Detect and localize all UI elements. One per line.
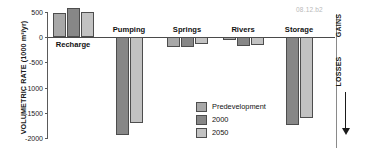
legend-swatch xyxy=(196,115,207,125)
bar xyxy=(223,37,236,40)
gains-label: GAINS xyxy=(335,6,342,46)
bar xyxy=(81,12,94,37)
y-tick-label: 0 xyxy=(39,34,43,41)
y-tick-label: -1500 xyxy=(25,109,43,116)
bar xyxy=(251,37,264,45)
legend-swatch xyxy=(196,128,207,138)
group-label: Rivers xyxy=(231,25,254,34)
bar xyxy=(53,13,66,38)
losses-arrow-head xyxy=(342,128,350,135)
y-tick xyxy=(45,62,49,63)
bar xyxy=(286,37,299,125)
y-tick-label: 500 xyxy=(31,9,43,16)
y-tick xyxy=(45,37,49,38)
y-tick xyxy=(45,138,49,139)
y-tick xyxy=(45,88,49,89)
y-tick-label: -1000 xyxy=(25,84,43,91)
y-tick xyxy=(45,12,49,13)
losses-label: LOSSES xyxy=(335,44,342,100)
bar xyxy=(300,37,313,118)
legend-item: 2050 xyxy=(196,126,266,139)
y-axis-title: VOLUMETRIC RATE (1000 m³/yr) xyxy=(19,8,28,148)
group-label: Pumping xyxy=(113,25,145,34)
losses-arrow-shaft xyxy=(345,92,346,130)
bar xyxy=(116,37,129,135)
group-label: Recharge xyxy=(56,40,91,49)
bar xyxy=(67,8,80,37)
chart-legend: Predevelopment20002050 xyxy=(196,100,266,139)
legend-swatch xyxy=(196,102,207,112)
legend-label: 2000 xyxy=(212,115,228,124)
figure-container: 08.12.b2 VOLUMETRIC RATE (1000 m³/yr) 50… xyxy=(0,0,365,156)
bar xyxy=(167,37,180,47)
group-label: Springs xyxy=(173,25,201,34)
group-label: Storage xyxy=(285,25,313,34)
legend-label: 2050 xyxy=(212,128,228,137)
plot-area: 5000-500-1000-1500-2000RechargePumpingSp… xyxy=(47,12,335,138)
bar xyxy=(237,37,250,46)
y-axis-line xyxy=(47,12,48,138)
y-tick xyxy=(45,113,49,114)
y-tick-label: -2000 xyxy=(25,135,43,142)
legend-item: Predevelopment xyxy=(196,100,266,113)
bar xyxy=(195,37,208,44)
legend-label: Predevelopment xyxy=(212,102,266,111)
y-tick-label: -500 xyxy=(29,59,43,66)
bar xyxy=(181,37,194,47)
bar xyxy=(130,37,143,123)
legend-item: 2000 xyxy=(196,113,266,126)
